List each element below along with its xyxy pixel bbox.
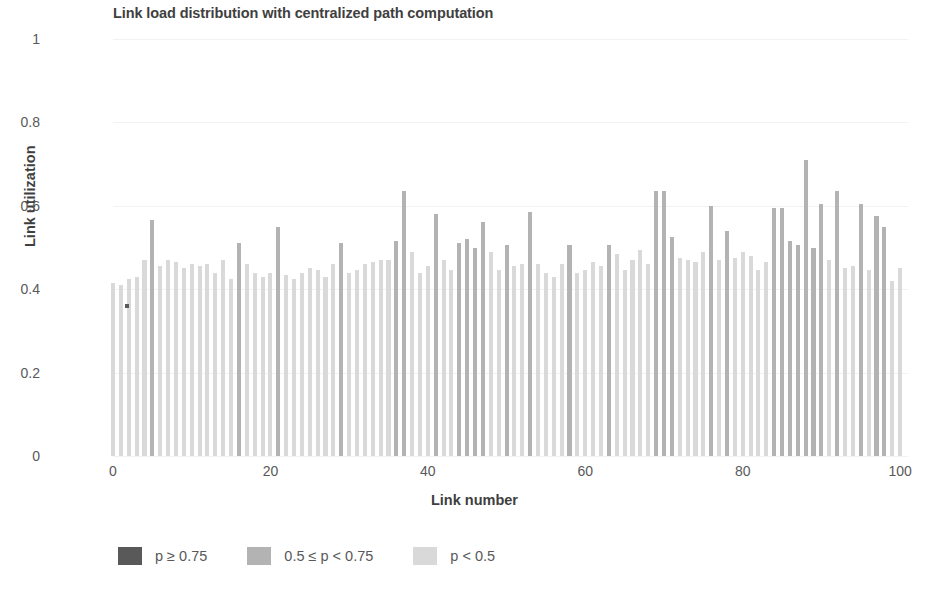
bar — [198, 266, 202, 456]
x-axis-tick-label: 80 — [735, 463, 751, 479]
bar — [630, 260, 634, 456]
x-axis-tick-label: 0 — [109, 463, 117, 479]
bar — [434, 214, 438, 456]
bar — [851, 266, 855, 456]
bar — [190, 264, 194, 456]
bar — [182, 268, 186, 456]
bar — [646, 264, 650, 456]
bar — [158, 266, 162, 456]
bar — [418, 273, 422, 456]
stray-data-marker — [125, 304, 129, 308]
legend-item-label: p < 0.5 — [450, 548, 495, 564]
bar — [150, 220, 154, 456]
bar — [363, 264, 367, 456]
bar — [843, 268, 847, 456]
bar — [339, 243, 343, 456]
gridline — [113, 456, 908, 457]
bar — [284, 275, 288, 456]
bar — [591, 262, 595, 456]
bar — [371, 262, 375, 456]
legend-item[interactable]: p < 0.5 — [413, 547, 495, 565]
bar — [890, 281, 894, 456]
bar — [701, 252, 705, 456]
bar — [756, 270, 760, 456]
bar — [804, 160, 808, 456]
y-axis-tick-label: 1 — [0, 31, 40, 47]
bar — [678, 258, 682, 456]
bar — [308, 268, 312, 456]
bar — [166, 260, 170, 456]
bar — [835, 191, 839, 456]
bar — [394, 241, 398, 456]
bar — [229, 279, 233, 456]
bar — [111, 283, 115, 456]
bar — [741, 252, 745, 456]
chart-title: Link load distribution with centralized … — [113, 5, 493, 21]
legend-item-label: 0.5 ≤ p < 0.75 — [284, 548, 373, 564]
bar — [473, 248, 477, 457]
bar — [261, 277, 265, 456]
y-axis-tick-label: 0.2 — [0, 365, 40, 381]
bar — [237, 243, 241, 456]
x-axis-title: Link number — [0, 492, 949, 508]
bar — [638, 250, 642, 456]
bar — [544, 273, 548, 456]
legend-item[interactable]: 0.5 ≤ p < 0.75 — [247, 547, 373, 565]
bar — [481, 222, 485, 456]
bar — [867, 270, 871, 456]
bar — [213, 273, 217, 456]
bar — [607, 245, 611, 456]
bar — [670, 237, 674, 456]
bar — [300, 273, 304, 456]
bar — [811, 248, 815, 457]
bar — [772, 208, 776, 456]
x-axis-tick-label: 60 — [577, 463, 593, 479]
bar — [457, 243, 461, 456]
bar — [355, 270, 359, 456]
bar — [426, 266, 430, 456]
y-axis-tick-label: 0 — [0, 448, 40, 464]
bar — [528, 212, 532, 456]
bar — [512, 266, 516, 456]
bar — [119, 285, 123, 456]
bar — [898, 268, 902, 456]
bar — [276, 227, 280, 456]
bar — [292, 279, 296, 456]
bar — [693, 262, 697, 456]
plot-area — [113, 39, 908, 456]
bar — [780, 208, 784, 456]
bar — [442, 260, 446, 456]
bar — [205, 264, 209, 456]
bar — [686, 260, 690, 456]
bar — [331, 264, 335, 456]
bar — [489, 252, 493, 456]
bar — [316, 270, 320, 456]
bar — [465, 239, 469, 456]
bar — [552, 277, 556, 456]
bar — [575, 273, 579, 456]
y-axis-tick-label: 0.8 — [0, 114, 40, 130]
bar — [135, 277, 139, 456]
chart-legend: p ≥ 0.750.5 ≤ p < 0.75p < 0.5 — [118, 547, 535, 565]
bar — [859, 204, 863, 456]
legend-item[interactable]: p ≥ 0.75 — [118, 547, 207, 565]
y-axis-tick-label: 0.4 — [0, 281, 40, 297]
bar — [733, 258, 737, 456]
bar — [827, 260, 831, 456]
bar — [497, 270, 501, 456]
bar — [709, 206, 713, 456]
bar — [253, 273, 257, 456]
x-axis-tick-label: 100 — [888, 463, 911, 479]
bar — [174, 262, 178, 456]
bar — [536, 264, 540, 456]
x-axis-tick-label: 40 — [420, 463, 436, 479]
bar — [796, 245, 800, 456]
bar — [725, 231, 729, 456]
bar — [142, 260, 146, 456]
bar — [662, 191, 666, 456]
bar — [410, 252, 414, 456]
bar — [599, 266, 603, 456]
bar — [221, 260, 225, 456]
bar — [245, 264, 249, 456]
bars-layer — [113, 39, 908, 456]
